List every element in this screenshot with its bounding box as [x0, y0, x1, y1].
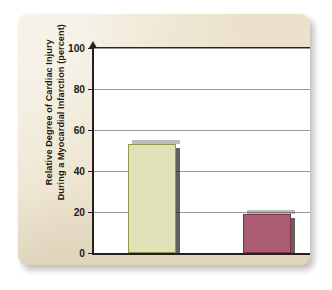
y-axis-tick-label: 0 [79, 248, 85, 259]
y-axis-tick [88, 48, 94, 49]
gridline [94, 48, 310, 49]
y-axis-tick [88, 212, 94, 213]
bar[interactable] [243, 214, 291, 253]
gridline [94, 130, 310, 131]
bar[interactable] [128, 144, 176, 253]
y-axis-title: Relative Degree of Cardiac Injury During… [43, 14, 67, 217]
y-axis-line [92, 44, 94, 253]
y-axis-tick [88, 89, 94, 90]
y-axis-tick-label: 60 [74, 125, 85, 136]
y-axis-tick [88, 171, 94, 172]
bar-top-shadow [247, 210, 295, 214]
y-axis-arrow-icon [89, 41, 97, 48]
plot-area: 020406080100 Untrained IndividualTrained… [94, 47, 310, 253]
y-axis-tick [88, 130, 94, 131]
y-axis-tick-label: 20 [74, 207, 85, 218]
bar-body [128, 144, 176, 253]
bar-body [243, 214, 291, 253]
gridline [94, 89, 310, 90]
gridline [94, 171, 310, 172]
y-axis-tick-label: 80 [74, 84, 85, 95]
y-axis-tick-label: 40 [74, 166, 85, 177]
figure-canvas: Relative Degree of Cardiac Injury During… [0, 0, 332, 290]
y-axis-tick-label: 100 [68, 43, 85, 54]
bar-right-shadow [291, 218, 295, 253]
bar-top-shadow [132, 140, 180, 144]
y-axis-tick [88, 253, 94, 254]
x-axis-line [92, 253, 310, 255]
bar-right-shadow [176, 148, 180, 253]
chart-card: Relative Degree of Cardiac Injury During… [18, 14, 310, 265]
